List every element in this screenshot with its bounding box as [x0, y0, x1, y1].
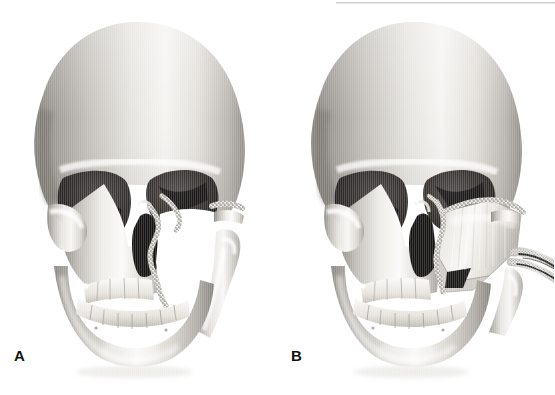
- panel-a: A: [0, 0, 277, 395]
- skull-illustration-a: [0, 0, 277, 395]
- figure-root: A: [0, 0, 555, 395]
- panel-label-a: A: [14, 348, 25, 363]
- panel-label-b: B: [291, 348, 302, 363]
- skull-illustration-b: [277, 0, 554, 395]
- mandibular-teeth-b: [353, 298, 467, 329]
- panel-b: B: [277, 0, 554, 395]
